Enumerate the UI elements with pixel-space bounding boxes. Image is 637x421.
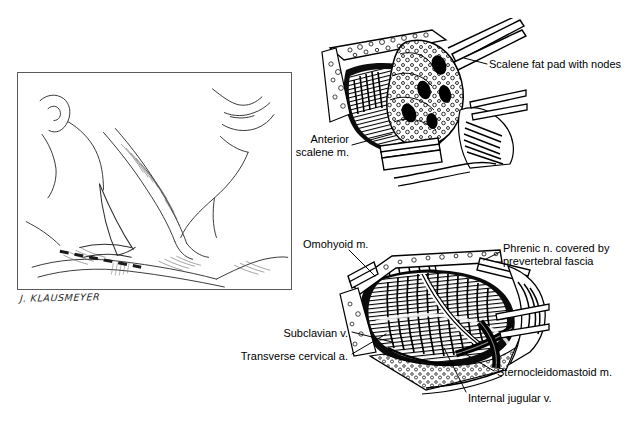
surgical-field-upper	[320, 18, 528, 198]
label-anterior-scalene: Anterior scalene m.	[287, 133, 349, 158]
label-internal-jugular-vein: Internal jugular v.	[468, 392, 552, 405]
label-transverse-cervical-artery: Transverse cervical a.	[228, 350, 348, 363]
scalene-fat-pad-dissection-art	[320, 18, 528, 198]
artist-signature: J. KLAUSMEYER	[19, 291, 100, 304]
label-phrenic-nerve: Phrenic n. covered by prevertebral fasci…	[503, 242, 609, 267]
label-sternocleidomastoid: Sternocleidomastoid m.	[497, 366, 612, 379]
illustration-plate: J. KLAUSMEYER	[0, 0, 637, 421]
label-subclavian-vein: Subclavian v.	[268, 327, 348, 340]
label-scalene-fat-pad: Scalene fat pad with nodes	[489, 58, 621, 71]
label-omohyoid: Omohyoid m.	[303, 238, 368, 251]
neck-surface-anatomy-drawing	[18, 73, 291, 289]
orientation-panel-frame	[17, 72, 292, 290]
